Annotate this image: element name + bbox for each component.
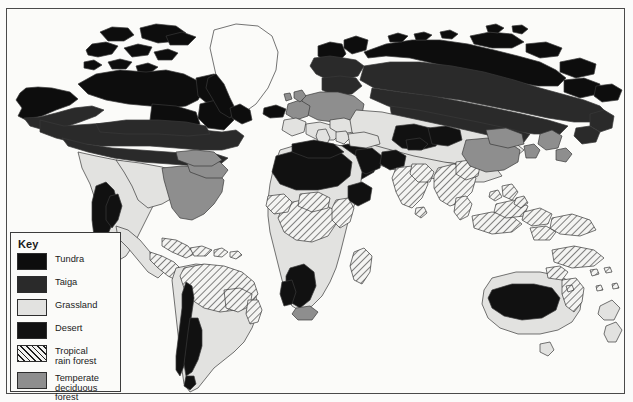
legend-label-desert: Desert	[55, 321, 82, 334]
africa	[266, 140, 372, 320]
legend-swatch-grassland	[17, 299, 47, 316]
map-legend: Key Tundra Taiga Grassland Desert Tropic…	[10, 232, 121, 392]
legend-label-grassland: Grassland	[55, 298, 97, 311]
greenland	[206, 24, 286, 124]
legend-swatch-desert	[17, 322, 47, 339]
world-biome-map-page: Key Tundra Taiga Grassland Desert Tropic…	[0, 0, 633, 402]
legend-swatch-taiga	[17, 276, 47, 293]
legend-label-temperate-deciduous-forest: Temperate deciduous forest	[55, 371, 120, 402]
legend-item-desert: Desert	[17, 321, 120, 342]
legend-swatch-tundra	[17, 253, 47, 270]
asia	[326, 24, 622, 240]
legend-item-taiga: Taiga	[17, 275, 120, 296]
legend-label-tropical-rain-forest: Tropical rain forest	[55, 344, 96, 366]
legend-swatch-temperate-deciduous-forest	[17, 372, 47, 389]
legend-swatch-tropical-rain-forest	[17, 345, 47, 362]
legend-label-tundra: Tundra	[55, 252, 84, 265]
legend-item-tundra: Tundra	[17, 252, 120, 273]
legend-item-tropical-rain-forest: Tropical rain forest	[17, 344, 120, 369]
legend-item-grassland: Grassland	[17, 298, 120, 319]
south-america	[172, 264, 262, 392]
legend-title: Key	[18, 238, 120, 250]
legend-label-taiga: Taiga	[55, 275, 77, 288]
legend-item-temperate-deciduous-forest: Temperate deciduous forest	[17, 371, 120, 396]
australia-oceania	[482, 246, 622, 356]
